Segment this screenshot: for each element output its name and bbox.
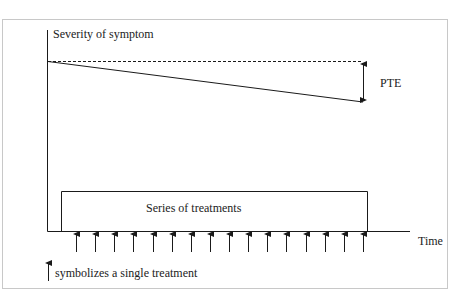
pte-label: PTE: [380, 76, 401, 90]
treatment-series-label: Series of treatments: [146, 201, 241, 215]
y-axis-label: Severity of symptom: [53, 27, 154, 41]
x-axis-label: Time: [418, 234, 443, 248]
severity-trend-line: [48, 62, 363, 103]
treatment-arrows: [77, 234, 364, 252]
diagram-canvas: [0, 0, 463, 302]
legend-text: symbolizes a single treatment: [55, 266, 197, 280]
